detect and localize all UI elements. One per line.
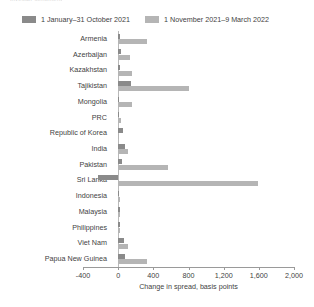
bar-india-series-2: [118, 149, 128, 154]
bars-container: [83, 31, 294, 267]
bar-azerbaijan-series-2: [118, 55, 130, 60]
legend-label-period-1: 1 January–31 October 2021: [41, 15, 130, 24]
bar-papua-new-guinea-series-2: [118, 259, 147, 264]
legend-item-period-1[interactable]: 1 January–31 October 2021: [22, 15, 130, 24]
axis-tick-label: 2,000: [285, 271, 303, 280]
axis-tick: [153, 267, 154, 270]
axis-tick-label: 400: [147, 271, 159, 280]
bar-malaysia-series-2: [118, 212, 120, 217]
axis-tick: [83, 267, 84, 270]
bar-tajikistan-series-2: [118, 86, 189, 91]
axis-title: Change in spread, basis points: [83, 282, 294, 291]
axis-tick: [118, 267, 119, 270]
chart-figure: investor sentiment 1 January–31 October …: [0, 0, 314, 307]
axis-tick: [259, 267, 260, 270]
bar-mongolia-series-1: [118, 97, 119, 102]
bar-prc-series-2: [118, 118, 121, 123]
value-axis: -40004008001,2001,6002,000 Change in spr…: [83, 267, 294, 307]
legend-swatch-period-2: [145, 16, 159, 23]
clipped-figure-title: investor sentiment: [10, 0, 62, 3]
bar-indonesia-series-2: [118, 197, 120, 202]
bar-philippines-series-1: [118, 222, 120, 227]
bar-sri-lanka-series-1: [98, 175, 118, 180]
axis-tick-label: 1,200: [215, 271, 233, 280]
axis-tick-label: 800: [183, 271, 195, 280]
bar-viet-nam-series-1: [118, 238, 124, 243]
bar-republic-of-korea-series-2: [118, 134, 119, 139]
bar-pakistan-series-1: [118, 159, 122, 164]
bar-malaysia-series-1: [118, 207, 120, 212]
bar-kazakhstan-series-1: [118, 65, 120, 70]
bar-armenia-series-2: [118, 39, 147, 44]
bar-prc-series-1: [118, 112, 119, 117]
axis-tick-label: 0: [116, 271, 120, 280]
legend-swatch-period-1: [22, 16, 36, 23]
bar-philippines-series-2: [118, 228, 120, 233]
bar-india-series-1: [118, 144, 125, 149]
bar-mongolia-series-2: [118, 102, 132, 107]
plot-area: ArmeniaAzerbaijanKazakhstanTajikistanMon…: [0, 31, 314, 267]
legend-label-period-2: 1 November 2021–9 March 2022: [164, 15, 269, 24]
bar-sri-lanka-series-2: [118, 181, 258, 186]
chart-legend: 1 January–31 October 2021 1 November 202…: [18, 15, 308, 27]
bar-papua-new-guinea-series-1: [118, 254, 125, 259]
bar-kazakhstan-series-2: [118, 71, 132, 76]
legend-item-period-2[interactable]: 1 November 2021–9 March 2022: [145, 15, 269, 24]
bar-tajikistan-series-1: [118, 81, 131, 86]
bar-pakistan-series-2: [118, 165, 168, 170]
bar-azerbaijan-series-1: [118, 49, 121, 54]
axis-tick-label: 1,600: [250, 271, 268, 280]
axis-tick: [294, 267, 295, 270]
bar-indonesia-series-1: [118, 191, 119, 196]
bar-viet-nam-series-2: [118, 244, 128, 249]
bar-republic-of-korea-series-1: [118, 128, 123, 133]
bar-armenia-series-1: [118, 34, 120, 39]
axis-tick: [189, 267, 190, 270]
axis-tick: [224, 267, 225, 270]
axis-tick-label: -400: [76, 271, 90, 280]
